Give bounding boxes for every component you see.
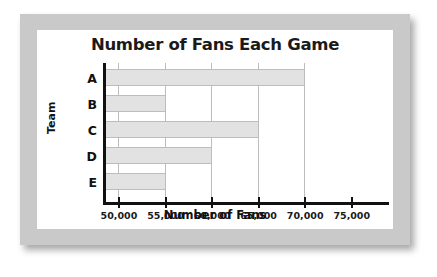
bar-c — [105, 121, 259, 138]
picture-frame: Number of Fans Each Game Team ABCDE 50,0… — [20, 14, 410, 245]
bar-e — [105, 173, 166, 190]
plot-area: ABCDE 50,00055,00060,00065,00070,00075,0… — [105, 63, 389, 205]
y-tick-label-d: D — [79, 148, 97, 163]
y-tick-label-b: B — [79, 96, 97, 111]
bar-chart: Number of Fans Each Game Team ABCDE 50,0… — [37, 30, 393, 229]
x-tick — [165, 197, 167, 208]
x-tick — [118, 197, 120, 208]
x-tick — [351, 197, 353, 208]
x-axis-line — [103, 202, 389, 205]
chart-title: Number of Fans Each Game — [37, 35, 393, 54]
y-tick-label-e: E — [79, 174, 97, 189]
y-axis-title: Team — [45, 102, 58, 134]
bar-d — [105, 147, 212, 164]
x-axis-title: Number of Fans — [37, 208, 393, 222]
x-tick — [304, 197, 306, 208]
x-tick — [211, 197, 213, 208]
y-tick-label-a: A — [79, 70, 97, 85]
x-tick — [258, 197, 260, 208]
y-tick-label-c: C — [79, 122, 97, 137]
y-axis-line — [103, 63, 106, 205]
bar-b — [105, 95, 166, 112]
frame-inner-matte: Number of Fans Each Game Team ABCDE 50,0… — [37, 30, 393, 229]
bar-a — [105, 69, 305, 86]
